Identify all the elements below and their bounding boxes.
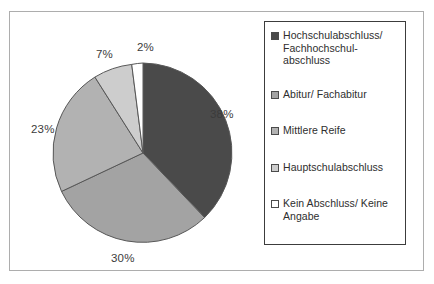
legend-label-line-2: Angabe bbox=[283, 210, 320, 222]
legend-item-mittlere-reife[interactable]: Mittlere Reife bbox=[271, 124, 400, 137]
legend-item-label: Kein Abschluss/ KeineAngabe bbox=[283, 197, 388, 222]
legend-swatch-icon bbox=[271, 91, 279, 99]
legend-swatch-icon bbox=[271, 164, 279, 172]
legend-swatch-icon bbox=[271, 127, 279, 135]
legend-item-kein-abschluss[interactable]: Kein Abschluss/ KeineAngabe bbox=[271, 197, 400, 222]
legend-item-hochschulabschluss[interactable]: Hochschulabschluss/Fachhochschul-abschlu… bbox=[271, 29, 400, 67]
legend-swatch-icon bbox=[271, 32, 279, 40]
legend-item-hauptschulabschluss[interactable]: Hauptschulabschluss bbox=[271, 161, 400, 174]
pie-label-abitur-fachabitur: 30% bbox=[111, 252, 135, 264]
pie-label-mittlere-reife: 23% bbox=[31, 123, 55, 135]
pie-plot-area: 38% 30% 23% 7% 2% bbox=[10, 12, 263, 272]
chart-legend: Hochschulabschluss/Fachhochschul-abschlu… bbox=[264, 21, 406, 245]
legend-item-abitur-fachabitur[interactable]: Abitur/ Fachabitur bbox=[271, 88, 400, 101]
legend-label-line-2: Fachhochschul- bbox=[283, 42, 358, 54]
legend-label-line-1: Hochschulabschluss/ bbox=[283, 29, 383, 41]
pie-chart bbox=[52, 62, 234, 244]
legend-swatch-icon bbox=[271, 200, 279, 208]
legend-item-label: Abitur/ Fachabitur bbox=[283, 88, 367, 101]
pie-label-hochschulabschluss: 38% bbox=[210, 108, 234, 120]
legend-label-line-1: Kein Abschluss/ Keine bbox=[283, 197, 388, 209]
legend-label-line-3: abschluss bbox=[283, 54, 330, 66]
legend-item-label: Mittlere Reife bbox=[283, 124, 346, 137]
legend-item-label: Hochschulabschluss/Fachhochschul-abschlu… bbox=[283, 29, 383, 67]
pie-label-hauptschulabschluss: 7% bbox=[96, 48, 113, 60]
chart-frame: 38% 30% 23% 7% 2% Hochschulabschluss/Fac… bbox=[9, 11, 424, 271]
pie-label-kein-abschluss: 2% bbox=[137, 41, 154, 53]
legend-item-label: Hauptschulabschluss bbox=[283, 161, 383, 174]
